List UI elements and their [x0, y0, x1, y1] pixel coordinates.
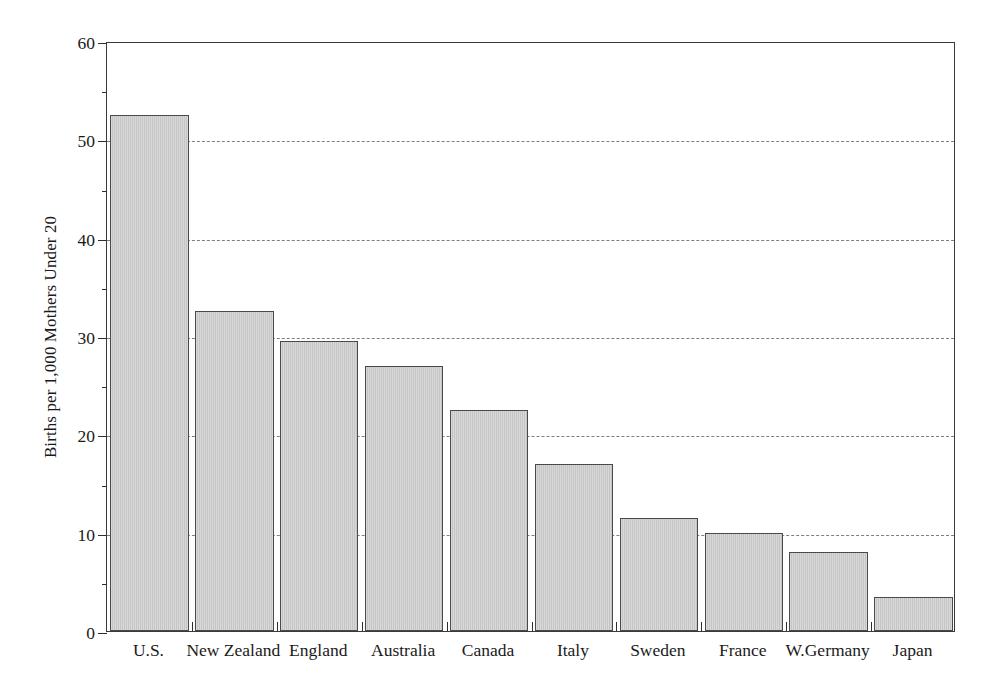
x-axis-tick [786, 622, 787, 631]
x-axis-label: England [289, 640, 347, 661]
x-axis-tick [277, 622, 278, 631]
y-axis-minor-tick [102, 486, 107, 487]
x-axis-tick [616, 622, 617, 631]
y-axis-minor-tick [102, 289, 107, 290]
y-axis-title: Births per 1,000 Mothers Under 20 [36, 37, 66, 637]
x-axis-label: W.Germany [785, 640, 869, 661]
x-axis-tick [362, 622, 363, 631]
plot-area: 0102030405060 [106, 42, 955, 632]
y-axis-tick [98, 633, 107, 634]
x-axis-label: New Zealand [186, 640, 280, 661]
y-axis-tick [98, 43, 107, 44]
bar [110, 115, 188, 631]
bar [620, 518, 698, 631]
y-axis-tick [98, 141, 107, 142]
bar-chart: Births per 1,000 Mothers Under 20 010203… [0, 0, 991, 700]
bar [450, 410, 528, 631]
gridline [107, 240, 954, 241]
bar [365, 366, 443, 632]
x-axis-tick [532, 622, 533, 631]
bar [280, 341, 358, 631]
x-axis-label: Sweden [630, 640, 685, 661]
bar [195, 311, 273, 631]
y-axis-minor-tick [102, 191, 107, 192]
y-axis-tick-label: 30 [78, 328, 96, 349]
bar [705, 533, 783, 631]
x-axis-label: Japan [893, 640, 933, 661]
y-axis-tick-label: 10 [78, 524, 96, 545]
y-axis-tick-label: 60 [78, 33, 96, 54]
x-axis-label: Australia [371, 640, 435, 661]
y-axis-tick [98, 240, 107, 241]
bar [874, 597, 952, 631]
x-axis-label: U.S. [133, 640, 164, 661]
gridline [107, 141, 954, 142]
x-axis-label: France [719, 640, 767, 661]
y-axis-tick-label: 50 [78, 131, 96, 152]
x-axis-tick [192, 622, 193, 631]
bar [535, 464, 613, 631]
x-axis-tick [701, 622, 702, 631]
y-axis-minor-tick [102, 387, 107, 388]
y-axis-tick-label: 0 [86, 623, 95, 644]
y-axis-tick [98, 436, 107, 437]
bar [789, 552, 867, 631]
x-axis-tick [447, 622, 448, 631]
y-axis-minor-tick [102, 92, 107, 93]
y-axis-minor-tick [102, 584, 107, 585]
x-axis-label: Canada [462, 640, 514, 661]
x-axis-tick [871, 622, 872, 631]
y-axis-tick-label: 20 [78, 426, 96, 447]
y-axis-tick [98, 338, 107, 339]
y-axis-tick [98, 535, 107, 536]
x-axis-label: Italy [557, 640, 589, 661]
y-axis-tick-label: 40 [78, 229, 96, 250]
